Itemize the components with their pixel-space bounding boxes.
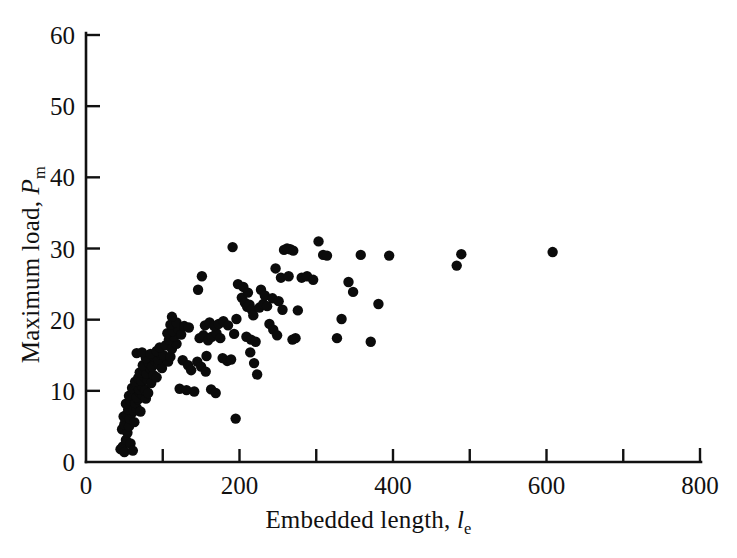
data-point (193, 285, 203, 295)
y-axis-tick-label: 0 (63, 449, 76, 476)
data-point (332, 333, 342, 343)
data-point (197, 271, 207, 281)
y-axis-tick-label: 40 (50, 164, 75, 191)
data-point (272, 330, 282, 340)
data-point (189, 386, 199, 396)
data-point (290, 333, 300, 343)
data-point (201, 366, 211, 376)
axes-group (86, 33, 701, 462)
data-point (231, 314, 241, 324)
axis-tick-labels-group: 02004006008000102030405060 (50, 22, 719, 499)
x-axis-title: Embedded length, le (0, 506, 737, 539)
plot-canvas: 02004006008000102030405060 (0, 0, 737, 558)
data-point (243, 287, 253, 297)
y-axis-tick-label: 50 (50, 93, 75, 120)
data-point (135, 406, 145, 416)
data-point (167, 312, 177, 322)
data-point (322, 250, 332, 260)
y-axis-title: Maximum load, Pm (17, 100, 50, 430)
data-point (184, 322, 194, 332)
scatter-plot-figure: 02004006008000102030405060 Embedded leng… (0, 0, 737, 558)
data-point (293, 305, 303, 315)
data-point (230, 413, 240, 423)
data-point (250, 337, 260, 347)
data-points-group (115, 236, 558, 457)
data-point (211, 388, 221, 398)
data-point (277, 305, 287, 315)
data-point (366, 337, 376, 347)
data-point (245, 347, 255, 357)
data-point (201, 351, 211, 361)
x-axis-tick-label: 600 (528, 472, 566, 499)
data-point (452, 260, 462, 270)
data-point (283, 271, 293, 281)
data-point (226, 354, 236, 364)
data-point (229, 329, 239, 339)
data-point (129, 417, 139, 427)
x-axis-title-prefix: Embedded length, (265, 506, 457, 533)
data-point (223, 320, 233, 330)
data-point (336, 314, 346, 324)
data-point (249, 358, 259, 368)
data-point (143, 388, 153, 398)
data-point (313, 236, 323, 246)
y-axis-tick-label: 20 (50, 307, 75, 334)
data-point (186, 365, 196, 375)
data-point (288, 245, 298, 255)
data-point (151, 372, 161, 382)
data-point (128, 445, 138, 455)
x-axis-title-subscript: e (464, 519, 472, 538)
axis-ticks-group (86, 106, 623, 462)
data-point (215, 333, 225, 343)
data-point (270, 263, 280, 273)
data-point (356, 250, 366, 260)
y-axis-title-symbol: P (17, 179, 44, 194)
data-point (373, 299, 383, 309)
y-axis-tick-label: 30 (50, 236, 75, 263)
data-point (227, 242, 237, 252)
x-axis-tick-label: 400 (374, 472, 412, 499)
y-axis-tick-label: 10 (50, 378, 75, 405)
y-axis-tick-label: 60 (50, 22, 75, 49)
data-point (308, 275, 318, 285)
y-axis-title-subscript: m (30, 166, 49, 179)
x-axis-tick-label: 0 (80, 472, 93, 499)
data-point (343, 277, 353, 287)
y-axis-title-prefix: Maximum load, (17, 194, 44, 363)
data-point (456, 249, 466, 259)
x-axis-tick-label: 200 (221, 472, 259, 499)
data-point (547, 247, 557, 257)
data-point (348, 287, 358, 297)
data-point (252, 369, 262, 379)
x-axis-tick-label: 800 (681, 472, 719, 499)
data-point (384, 250, 394, 260)
